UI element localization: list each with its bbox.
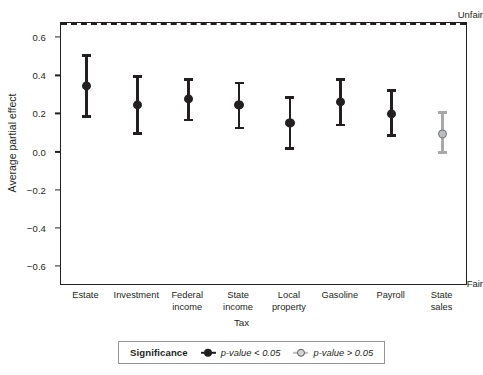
ci-cap-lower (387, 134, 396, 137)
data-point-marker (387, 109, 396, 118)
ci-cap-lower (438, 151, 447, 154)
ci-cap-upper (387, 89, 396, 92)
y-tick-label: −0.2 (27, 184, 55, 195)
y-tick-mark (55, 265, 60, 266)
ci-cap-upper (438, 111, 447, 114)
data-point-marker (336, 97, 345, 106)
ci-cap-upper (184, 78, 193, 81)
ci-cap-upper (336, 78, 345, 81)
ci-cap-upper (285, 96, 294, 99)
y-tick-label: −0.6 (27, 260, 55, 271)
ci-cap-upper (82, 54, 91, 57)
y-tick-label: 0.4 (32, 70, 55, 81)
x-tick-label: State sales (407, 290, 477, 313)
data-point-marker (82, 81, 91, 90)
ci-cap-lower (336, 124, 345, 127)
data-point-marker (184, 95, 193, 104)
ci-cap-lower (285, 147, 294, 150)
y-tick-mark (55, 189, 60, 190)
chart-figure: Average partial effect Unfair Fair 0.60.… (0, 0, 483, 375)
y-tick-mark (55, 227, 60, 228)
x-axis-title: Tax (0, 317, 483, 328)
data-point-marker (438, 129, 447, 138)
y-tick-mark (55, 151, 61, 153)
data-point-marker (133, 100, 142, 109)
ci-cap-lower (82, 115, 91, 118)
y-tick-mark (55, 75, 60, 76)
data-point-marker (234, 100, 243, 109)
legend-marker-not-significant-icon (293, 347, 308, 358)
ci-cap-lower (133, 132, 142, 135)
legend-entry-label: p-value < 0.05 (221, 347, 281, 358)
plot-area (60, 22, 467, 285)
ci-cap-lower (184, 119, 193, 122)
y-tick-label: −0.4 (27, 222, 55, 233)
y-tick-label: 0.6 (32, 32, 55, 43)
y-tick-mark (55, 113, 60, 114)
legend-entries: p-value < 0.05p-value > 0.05 (201, 347, 373, 358)
legend-entry-label: p-value > 0.05 (313, 347, 373, 358)
y-tick-label: 0.0 (32, 146, 55, 157)
legend: Significance p-value < 0.05p-value > 0.0… (118, 341, 385, 364)
legend-marker-significant-icon (201, 347, 216, 358)
ci-cap-lower (235, 127, 244, 130)
y-tick-label: 0.2 (32, 108, 55, 119)
ci-cap-upper (133, 75, 142, 78)
y-axis-anchor-high: Unfair (428, 9, 483, 20)
zero-reference-line (61, 23, 466, 25)
data-point-marker (285, 118, 294, 127)
legend-title: Significance (130, 347, 188, 358)
legend-entry: p-value > 0.05 (293, 347, 373, 358)
y-tick-mark (55, 37, 60, 38)
ci-cap-upper (235, 82, 244, 85)
legend-entry: p-value < 0.05 (201, 347, 281, 358)
